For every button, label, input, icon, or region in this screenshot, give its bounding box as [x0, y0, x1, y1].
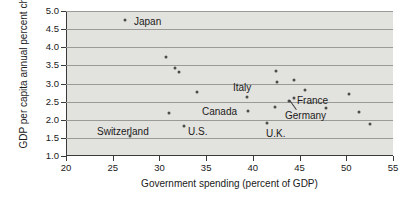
- x-tick: [206, 156, 207, 161]
- y-tick-label: 1.5: [46, 133, 59, 143]
- gridline: [66, 11, 393, 12]
- annotation-switzerland: Switzerland: [97, 127, 149, 137]
- x-tick-label: 30: [147, 163, 171, 173]
- data-point: [324, 106, 327, 109]
- gridline: [66, 65, 393, 66]
- annotation-italy: Italy: [233, 83, 251, 93]
- y-tick-label: 1.0: [46, 151, 59, 161]
- data-point: [276, 81, 279, 84]
- x-axis-label: Government spending (percent of GDP): [66, 178, 393, 189]
- x-tick: [113, 156, 114, 161]
- scatter-chart-figure: 1.01.52.02.53.03.54.04.55.0 202530354045…: [0, 0, 414, 201]
- x-tick-label: 25: [101, 163, 125, 173]
- annotation-u-s: U.S.: [188, 127, 207, 137]
- y-tick-label: 5.0: [46, 6, 59, 16]
- gridline: [66, 102, 393, 103]
- data-point: [195, 91, 198, 94]
- annotation-germany: Germany: [285, 111, 326, 121]
- y-tick: [61, 11, 66, 12]
- data-point: [358, 111, 361, 114]
- gridline: [66, 29, 393, 30]
- annotation-canada: Canada: [202, 107, 237, 117]
- y-tick-label: 2.0: [46, 115, 59, 125]
- data-point: [246, 95, 249, 98]
- x-tick: [346, 156, 347, 161]
- gridline: [66, 138, 393, 139]
- y-axis-label: GDP per capita annual percent change: [18, 0, 29, 149]
- x-tick: [300, 156, 301, 161]
- data-point-japan: [123, 18, 126, 21]
- data-point: [274, 106, 277, 109]
- y-tick: [61, 29, 66, 30]
- y-tick-label: 3.5: [46, 60, 59, 70]
- x-tick-label: 20: [54, 163, 78, 173]
- y-tick: [61, 84, 66, 85]
- x-tick-label: 50: [334, 163, 358, 173]
- data-point: [174, 66, 177, 69]
- data-point: [348, 93, 351, 96]
- gridline: [66, 120, 393, 121]
- data-point-france: [292, 96, 295, 99]
- data-point: [167, 112, 170, 115]
- y-tick: [61, 138, 66, 139]
- data-point: [178, 70, 181, 73]
- data-point: [164, 55, 167, 58]
- annotation-france: France: [297, 96, 328, 106]
- x-tick: [66, 156, 67, 161]
- x-tick: [393, 156, 394, 161]
- y-tick: [61, 120, 66, 121]
- y-tick-label: 3.0: [46, 79, 59, 89]
- data-point-u-k: [265, 121, 268, 124]
- gridline: [66, 84, 393, 85]
- gridline: [66, 47, 393, 48]
- annotation-japan: Japan: [134, 17, 161, 27]
- x-tick-label: 45: [288, 163, 312, 173]
- y-tick: [61, 65, 66, 66]
- annotation-u-k: U.K.: [266, 129, 285, 139]
- y-tick: [61, 102, 66, 103]
- data-point: [304, 88, 307, 91]
- data-point-canada: [247, 109, 250, 112]
- x-tick: [159, 156, 160, 161]
- x-tick-label: 35: [194, 163, 218, 173]
- data-point-u-s: [182, 125, 185, 128]
- y-tick-label: 4.0: [46, 42, 59, 52]
- x-tick-label: 40: [241, 163, 265, 173]
- x-tick: [253, 156, 254, 161]
- x-axis-line: [66, 155, 393, 156]
- data-point: [292, 78, 295, 81]
- data-point: [368, 122, 371, 125]
- y-tick-label: 4.5: [46, 24, 59, 34]
- data-point-italy: [275, 70, 278, 73]
- x-tick-label: 55: [381, 163, 405, 173]
- y-tick-label: 2.5: [46, 97, 59, 107]
- y-tick: [61, 47, 66, 48]
